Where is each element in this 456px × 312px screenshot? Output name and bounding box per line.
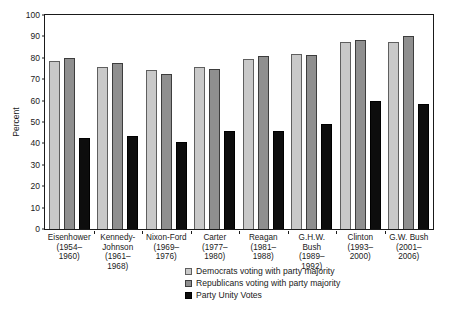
bar-unity xyxy=(79,138,90,229)
bar-group xyxy=(288,15,337,229)
bar-rep xyxy=(112,63,123,229)
bar-rep xyxy=(161,74,172,229)
y-tick-label: 40 xyxy=(10,139,45,148)
x-axis-label: Clinton (1993– 2000) xyxy=(336,233,385,271)
y-tick-label: 30 xyxy=(10,161,45,170)
bar-dem xyxy=(146,70,157,229)
bar-unity xyxy=(224,131,235,229)
unity-swatch-icon xyxy=(185,292,192,299)
bar-unity xyxy=(321,124,332,229)
y-tick-label: 100 xyxy=(10,11,45,20)
bar-dem xyxy=(194,67,205,229)
x-axis-label: G.W. Bush (2001– 2006) xyxy=(385,233,434,271)
bar-rep xyxy=(403,36,414,229)
bar-group xyxy=(94,15,143,229)
x-axis-label: Nixon-Ford (1969– 1976) xyxy=(142,233,191,271)
bar-dem xyxy=(291,54,302,229)
bar-rep xyxy=(64,58,75,229)
bar-rep xyxy=(355,40,366,229)
bar-rep xyxy=(258,56,269,229)
y-tick-label: 70 xyxy=(10,75,45,84)
bar-chart: Percent 100 90 80 70 60 50 40 30 20 10 0… xyxy=(0,0,456,312)
legend-item-label: Democrats voting with party majority xyxy=(196,267,335,276)
bar-dem xyxy=(340,42,351,229)
bar-groups xyxy=(45,15,433,229)
legend-item: Democrats voting with party majority xyxy=(185,266,340,277)
y-tick-label: 60 xyxy=(10,96,45,105)
legend: Democrats voting with party majority Rep… xyxy=(185,266,340,302)
bar-rep xyxy=(209,69,220,230)
bar-unity xyxy=(127,136,138,229)
bar-group xyxy=(385,15,434,229)
legend-item: Party Unity Votes xyxy=(185,290,340,301)
y-tick-label: 50 xyxy=(10,118,45,127)
dem-swatch-icon xyxy=(185,268,192,275)
bar-unity xyxy=(418,104,429,229)
bar-rep xyxy=(306,55,317,229)
bar-group xyxy=(336,15,385,229)
bar-dem xyxy=(49,61,60,229)
y-tick-label: 0 xyxy=(10,225,45,234)
y-tick-label: 20 xyxy=(10,182,45,191)
legend-item-label: Republicans voting with party majority xyxy=(196,279,340,288)
y-tick-label: 90 xyxy=(10,32,45,41)
bar-dem xyxy=(388,42,399,229)
bar-dem xyxy=(243,59,254,229)
bar-group xyxy=(191,15,240,229)
bar-group xyxy=(239,15,288,229)
legend-item: Republicans voting with party majority xyxy=(185,278,340,289)
bar-unity xyxy=(370,101,381,229)
y-tick-label: 80 xyxy=(10,54,45,63)
bar-unity xyxy=(273,131,284,229)
bar-unity xyxy=(176,142,187,229)
y-tick-label: 10 xyxy=(10,203,45,212)
x-axis-label: Eisenhower (1954– 1960) xyxy=(45,233,94,271)
legend-item-label: Party Unity Votes xyxy=(196,291,262,300)
bar-group xyxy=(142,15,191,229)
rep-swatch-icon xyxy=(185,280,192,287)
bar-group xyxy=(45,15,94,229)
bar-dem xyxy=(97,67,108,229)
x-axis-label: Kennedy- Johnson (1961– 1968) xyxy=(94,233,143,271)
